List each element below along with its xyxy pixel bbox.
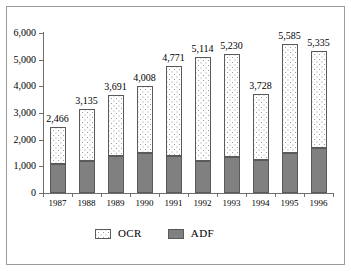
bar-segment-ocr [166,66,182,157]
bar-segment-adf [108,156,124,193]
x-axis-tick [246,194,247,197]
bar-segment-ocr [224,54,240,158]
bar-segment-ocr [195,57,211,161]
bar-stack [137,86,153,193]
bar-segment-adf [311,148,327,193]
bar-stack [166,66,182,193]
bar-segment-ocr [253,94,269,161]
x-axis-tick [188,194,189,197]
chart-legend: OCR ADF [95,228,214,239]
ocr-swatch-icon [95,229,111,239]
y-axis-tick-label: 0 [0,188,36,198]
y-axis-tick-label: 5,000 [0,55,36,65]
legend-item-adf: ADF [168,228,214,239]
bar-segment-adf [50,164,66,193]
x-axis-tick [130,194,131,197]
bar-segment-ocr [137,86,153,153]
legend-item-ocr: OCR [95,228,142,239]
bar-stack [224,54,240,193]
bar-stack [282,44,298,193]
y-axis-tick-label: 2,000 [0,135,36,145]
bar-value-label: 2,466 [39,114,77,124]
bar-stack [311,51,327,193]
bar-segment-ocr [50,127,66,164]
x-axis-tick [101,194,102,197]
bar-segment-ocr [79,109,95,161]
chart-figure: 01,0002,0003,0004,0005,0006,000 19871988… [0,0,351,271]
bar-segment-adf [137,153,153,193]
x-axis-tick [275,194,276,197]
y-axis-tick-label: 3,000 [0,108,36,118]
bar-segment-ocr [108,95,124,156]
bar-segment-adf [79,161,95,193]
x-axis-tick [159,194,160,197]
bar-value-label: 3,728 [242,81,280,91]
x-axis-tick [333,194,334,197]
bar-stack [50,127,66,193]
x-axis-tick [304,194,305,197]
y-axis-tick-label: 1,000 [0,161,36,171]
bar-stack [79,109,95,193]
adf-swatch-icon [168,229,184,239]
plot-area: 2,4663,1353,6914,0084,7715,1145,2303,728… [43,33,333,193]
bar-stack [253,94,269,193]
bar-stack [195,57,211,193]
legend-label-ocr: OCR [118,228,142,239]
bar-stack [108,95,124,193]
y-axis-tick-label: 4,000 [0,81,36,91]
y-axis-tick-label: 6,000 [0,28,36,38]
bar-value-label: 4,008 [126,73,164,83]
bar-value-label: 5,230 [213,41,251,51]
bar-segment-adf [282,153,298,193]
bar-segment-adf [253,160,269,193]
legend-label-adf: ADF [191,228,214,239]
bar-segment-adf [224,157,240,193]
bar-value-label: 5,335 [300,38,338,48]
bar-value-label: 4,771 [155,53,193,63]
bar-segment-ocr [311,51,327,149]
x-axis-tick [72,194,73,197]
bar-segment-ocr [282,44,298,153]
x-axis-tick [43,194,44,197]
x-axis-tick-label: 1996 [301,198,337,208]
bar-segment-adf [166,156,182,193]
x-axis-tick [217,194,218,197]
bar-value-label: 3,135 [68,96,106,106]
bar-segment-adf [195,161,211,193]
